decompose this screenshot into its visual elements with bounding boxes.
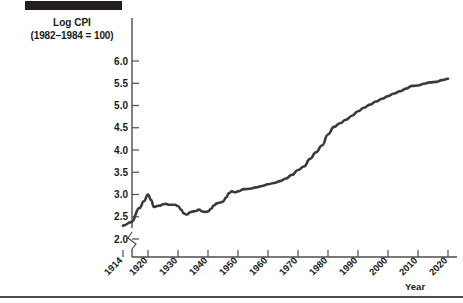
x-axis-title: Year (405, 281, 425, 292)
y-tick-label: 5.5 (114, 78, 128, 89)
y-tick-label: 5.0 (114, 100, 128, 111)
data-series-group (123, 79, 448, 226)
y-axis: 2.02.53.03.54.04.55.05.56.0 (114, 18, 139, 257)
x-tick-label: 1990 (337, 255, 360, 278)
x-tick-label: 2000 (367, 255, 390, 278)
x-tick-label: 1950 (217, 255, 240, 278)
figure-container: Log CPI (1982–1984 = 100) 2.02.53.03.54.… (0, 0, 463, 303)
x-tick-label: 2020 (427, 255, 450, 278)
y-tick-label: 2.0 (114, 234, 128, 245)
y-tick-label: 6.0 (114, 56, 128, 67)
footer-rule (0, 296, 463, 298)
y-tick-label: 4.0 (114, 145, 128, 156)
y-tick-label: 3.5 (114, 167, 128, 178)
x-tick-label: 2010 (397, 255, 420, 278)
x-tick-label: 1940 (187, 255, 210, 278)
x-tick-label: 1914 (102, 254, 125, 277)
x-tick-label: 1930 (157, 255, 180, 278)
series-line-log-cpi (123, 79, 448, 226)
y-axis-break-icon (128, 232, 136, 249)
x-tick-label: 1960 (247, 255, 270, 278)
x-tick-label: 1970 (277, 255, 300, 278)
x-axis: 1914192019301940195019601970198019902000… (102, 250, 457, 277)
x-tick-label: 1920 (127, 255, 150, 278)
y-tick-labels: 2.02.53.03.54.04.55.05.56.0 (114, 56, 128, 245)
x-tick-label: 1980 (307, 255, 330, 278)
line-chart-plot: 2.02.53.03.54.04.55.05.56.0 191419201930… (0, 0, 463, 303)
y-tick-label: 3.0 (114, 189, 128, 200)
y-tick-label: 4.5 (114, 122, 128, 133)
y-tick-label: 2.5 (114, 211, 128, 222)
